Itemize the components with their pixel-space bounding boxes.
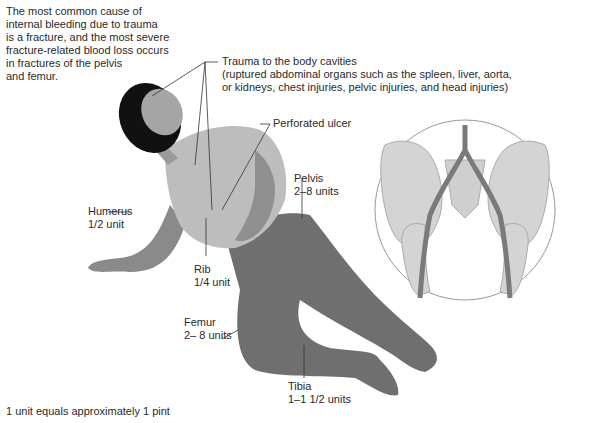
label-trauma-detail: (ruptured abdominal organs such as the s… (222, 68, 512, 81)
label-tibia-amount: 1–1 1/2 units (288, 393, 351, 406)
intro-line: and femur. (6, 70, 169, 83)
label-tibia: Tibia 1–1 1/2 units (288, 380, 351, 406)
label-ulcer-title: Perforated ulcer (273, 117, 351, 130)
label-rib-title: Rib (194, 263, 230, 276)
intro-text: The most common cause of internal bleedi… (6, 5, 169, 83)
pelvis-inset (375, 120, 555, 300)
label-humerus: Humerus 1/2 unit (88, 205, 133, 231)
intro-line: The most common cause of (6, 5, 169, 18)
label-pelvis-title: Pelvis (294, 172, 339, 185)
intro-line: internal bleeding due to trauma (6, 18, 169, 31)
label-rib-amount: 1/4 unit (194, 276, 230, 289)
intro-line: fracture-related blood loss occurs (6, 44, 169, 57)
intro-line: is a fracture, and the most severe (6, 31, 169, 44)
footnote: 1 unit equals approximately 1 pint (6, 405, 170, 418)
label-humerus-title: Humerus (88, 205, 133, 218)
label-trauma-title: Trauma to the body cavities (222, 55, 512, 68)
label-rib: Rib 1/4 unit (194, 263, 230, 289)
label-tibia-title: Tibia (288, 380, 351, 393)
label-pelvis-amount: 2–8 units (294, 185, 339, 198)
label-ulcer: Perforated ulcer (273, 117, 351, 130)
label-femur: Femur 2– 8 units (184, 316, 232, 342)
label-trauma-detail: or kidneys, chest injuries, pelvic injur… (222, 81, 512, 94)
label-femur-amount: 2– 8 units (184, 329, 232, 342)
label-humerus-amount: 1/2 unit (88, 218, 133, 231)
label-femur-title: Femur (184, 316, 232, 329)
label-pelvis: Pelvis 2–8 units (294, 172, 339, 198)
label-trauma: Trauma to the body cavities (ruptured ab… (222, 55, 512, 94)
intro-line: in fractures of the pelvis (6, 57, 169, 70)
